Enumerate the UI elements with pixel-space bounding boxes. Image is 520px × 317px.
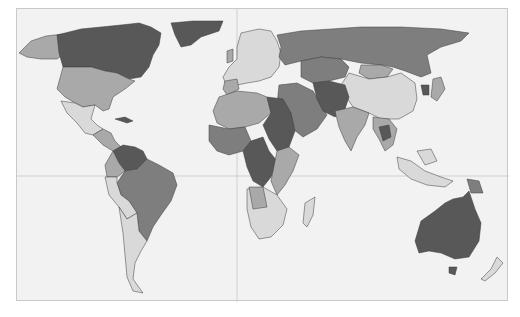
region-kazakhstan[interactable]	[301, 57, 349, 83]
region-greenland[interactable]	[171, 21, 223, 47]
region-japan[interactable]	[431, 77, 445, 101]
region-papua-new-guinea[interactable]	[467, 179, 483, 193]
region-cuba-caribbean[interactable]	[115, 117, 133, 123]
region-north-africa[interactable]	[213, 91, 271, 129]
region-australia[interactable]	[415, 191, 481, 259]
region-philippines-borneo[interactable]	[417, 149, 437, 165]
region-india[interactable]	[335, 107, 369, 151]
region-central-america[interactable]	[93, 129, 121, 151]
map-canvas	[17, 9, 509, 302]
world-map	[16, 8, 508, 301]
region-tasmania[interactable]	[449, 267, 457, 275]
region-east-africa[interactable]	[271, 147, 299, 195]
region-madagascar[interactable]	[303, 197, 315, 227]
region-uk[interactable]	[227, 49, 233, 63]
region-korea[interactable]	[421, 85, 429, 95]
region-new-zealand[interactable]	[481, 257, 503, 281]
